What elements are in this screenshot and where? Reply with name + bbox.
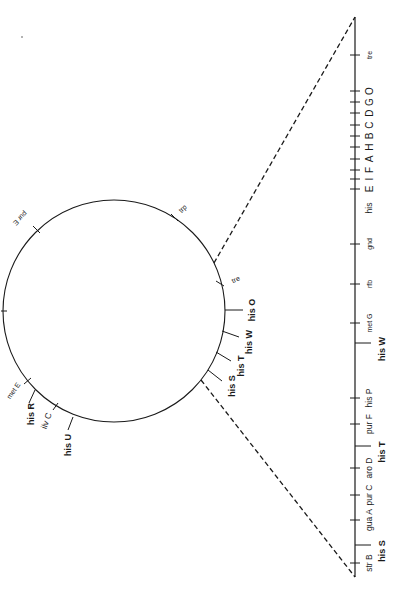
circle-tick-his-w xyxy=(222,331,239,337)
linear-label-his-p: his P xyxy=(364,388,374,407)
linear-label-pur-f: pur F xyxy=(364,414,374,434)
linear-label-str-b: str B xyxy=(364,554,374,572)
chromosome-circle xyxy=(3,200,225,422)
circle-label-trp: trp xyxy=(177,203,189,215)
linear-label-aro-d: aro D xyxy=(364,458,374,479)
linear-label-o: O xyxy=(364,87,375,95)
linear-label-his-w: his W xyxy=(377,336,387,361)
linear-label-his-s: his S xyxy=(377,540,387,562)
linear-label-f: F xyxy=(364,167,375,173)
circle-label-his-o: his O xyxy=(247,299,257,322)
linear-label-g: G xyxy=(364,98,375,106)
circle-tick-his-u xyxy=(68,417,73,430)
linear-label-e: E xyxy=(364,185,375,192)
dashed-line-upper xyxy=(214,17,355,263)
circle-label-his-r: his R xyxy=(26,403,36,426)
linear-label-d: D xyxy=(364,109,375,116)
linear-label-b: B xyxy=(364,132,375,139)
scan-artifacts xyxy=(21,36,23,38)
circle-label-his-t: his T xyxy=(236,355,246,377)
circle-tick-his-r xyxy=(29,390,35,403)
circle-tick-trp xyxy=(171,214,178,221)
linear-group-label-his: his xyxy=(364,203,374,214)
linear-label-his-t: his T xyxy=(377,441,387,463)
circle-tick-his-s xyxy=(208,370,222,381)
genetic-map-figure: pur Etrptrehis Ohis Whis This Smet Ehis … xyxy=(0,0,393,604)
linear-his-region-map: treOGDCBHAFIEgndrfbmet Ghis Whis Ppur Fh… xyxy=(350,17,387,577)
linear-label-i: I xyxy=(364,178,375,181)
circle-label-his-w: his W xyxy=(244,329,254,354)
scan-dot xyxy=(21,36,23,38)
circular-chromosome-map: pur Etrptrehis Ohis Whis This Smet Ehis … xyxy=(1,200,257,456)
linear-label-gua-a: gua A xyxy=(364,509,374,531)
chromosome-map-diagram: pur Etrptrehis Ohis Whis This Smet Ehis … xyxy=(0,0,393,604)
linear-label-tre: tre xyxy=(366,51,373,59)
circle-label-pur-e: pur E xyxy=(11,209,29,227)
linear-label-h: H xyxy=(364,143,375,150)
circle-tick-tre xyxy=(216,281,224,286)
linear-label-rfb: rfb xyxy=(366,280,373,288)
linear-label-pur-c: pur C xyxy=(364,485,374,506)
circle-label-ilv-c: ilv C xyxy=(39,411,54,430)
linear-label-gnd: gnd xyxy=(366,238,374,250)
dashed-line-lower xyxy=(201,380,355,577)
circle-label-tre: tre xyxy=(231,274,241,284)
circle-label-his-u: his U xyxy=(63,434,73,456)
circle-label-met-e: met E xyxy=(5,381,21,400)
linear-label-a: A xyxy=(364,155,375,162)
linear-label-met-g: met G xyxy=(366,313,373,332)
circle-label-his-s: his S xyxy=(227,375,237,397)
linear-label-c: C xyxy=(364,121,375,128)
circle-tick-his-t xyxy=(216,352,231,361)
